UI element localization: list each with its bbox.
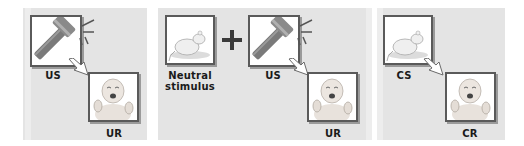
- impact-lines-icon: [78, 18, 96, 46]
- neutral-stimulus-label: Neutral stimulus: [160, 70, 220, 92]
- us-label: US: [38, 70, 68, 81]
- ur-label-2: UR: [318, 128, 348, 139]
- crying-baby-icon: [447, 74, 494, 120]
- cr-baby-frame: [445, 72, 496, 122]
- crying-baby-icon: [90, 74, 137, 120]
- cr-label: CR: [455, 128, 485, 139]
- neutral-rat-frame: [165, 15, 215, 65]
- rat-icon: [385, 17, 431, 63]
- impact-lines-icon: [296, 18, 314, 46]
- ur-baby-frame: [88, 72, 139, 122]
- plus-icon: [222, 30, 242, 50]
- ur-label: UR: [99, 128, 129, 139]
- rat-icon: [167, 17, 213, 63]
- us-label-2: US: [258, 70, 288, 81]
- crying-baby-icon: [309, 74, 356, 120]
- ur-baby-frame-2: [307, 72, 358, 122]
- cs-label: CS: [389, 70, 419, 81]
